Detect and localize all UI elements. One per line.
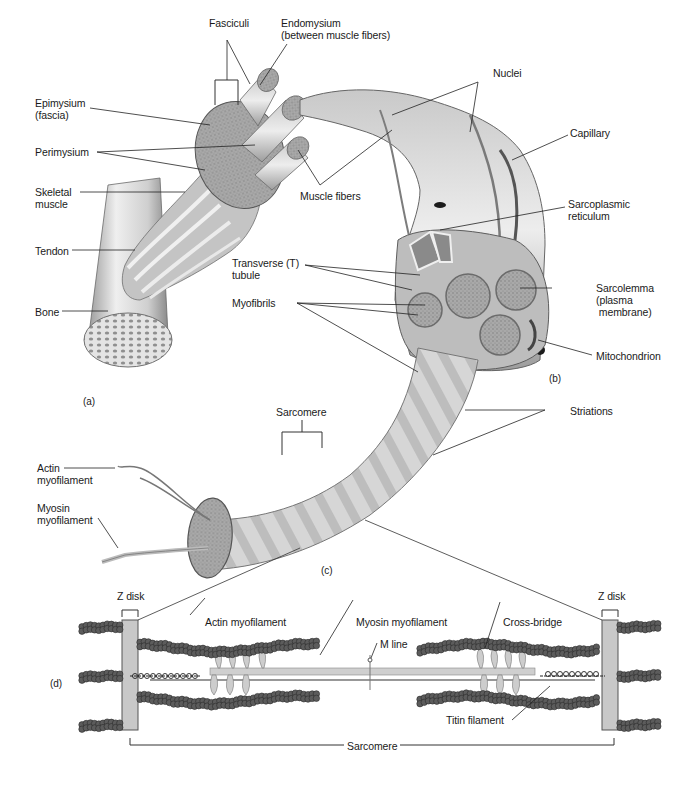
label-mitochondrion: Mitochondrion (596, 350, 661, 362)
label-sarcomere-c: Sarcomere (276, 406, 326, 418)
label-myofibrils: Myofibrils (232, 297, 275, 309)
label-bone: Bone (35, 306, 59, 318)
label-capillary: Capillary (570, 127, 610, 139)
label-epimysium: Epimysium (fascia) (35, 97, 85, 121)
panel-b-muscle-fiber (300, 90, 549, 371)
label-fasciculi: Fasciculi (209, 17, 249, 29)
label-striations: Striations (570, 405, 613, 417)
label-sarcoplasmic-reticulum: Sarcoplasmic reticulum (568, 198, 630, 222)
label-m-line: M line (380, 638, 407, 650)
label-transverse-tubule: Transverse (T) tubule (232, 257, 299, 281)
label-actin-myofilament-d: Actin myofilament (205, 616, 286, 628)
muscle-diagram-illustration (0, 0, 692, 788)
label-actin-myofilament-c: Actin myofilament (37, 462, 93, 486)
label-sarcomere-d: Sarcomere (344, 740, 400, 752)
panel-label-a: (a) (83, 396, 95, 408)
label-muscle-fibers: Muscle fibers (300, 190, 361, 202)
panel-label-c: (c) (321, 565, 332, 577)
panel-label-d: (d) (50, 678, 62, 690)
label-endomysium: Endomysium (between muscle fibers) (281, 17, 390, 41)
label-cross-bridge: Cross-bridge (503, 616, 562, 628)
label-titin-filament: Titin filament (446, 714, 504, 726)
label-z-disk-right: Z disk (598, 590, 625, 602)
label-sarcolemma: Sarcolemma (plasma membrane) (596, 282, 654, 318)
label-myosin-myofilament-d: Myosin myofilament (356, 616, 447, 628)
label-perimysium: Perimysium (35, 146, 89, 158)
label-tendon: Tendon (35, 245, 69, 257)
label-myosin-myofilament-c: Myosin myofilament (37, 502, 93, 526)
panel-label-b: (b) (549, 373, 561, 385)
label-z-disk-left: Z disk (117, 590, 144, 602)
panel-a-bone-muscle (84, 65, 313, 367)
panel-c-myofibril (102, 348, 478, 580)
panel-d-sarcomere (79, 610, 661, 745)
label-nuclei: Nuclei (493, 67, 522, 79)
label-skeletal-muscle: Skeletal muscle (35, 186, 72, 210)
